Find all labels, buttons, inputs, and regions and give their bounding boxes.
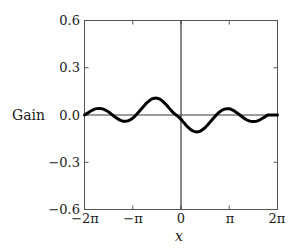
- x-tick-label-2: 0: [164, 212, 198, 225]
- x-axis-label: x: [175, 229, 183, 243]
- x-tick-label-0: −2π: [66, 212, 104, 225]
- figure-container: 0.6 0.3 0.0 −0.3 −0.6 −2π −π 0 π 2π Gain…: [0, 0, 296, 249]
- y-tick-label-0: 0.6: [34, 14, 80, 27]
- y-tick-label-1: 0.3: [34, 61, 80, 74]
- x-tick-label-1: −π: [114, 212, 152, 225]
- y-axis-label: Gain: [12, 108, 45, 122]
- x-tick-label-4: 2π: [258, 212, 296, 225]
- y-tick-label-3: −0.3: [28, 156, 80, 169]
- x-tick-label-3: π: [213, 212, 247, 225]
